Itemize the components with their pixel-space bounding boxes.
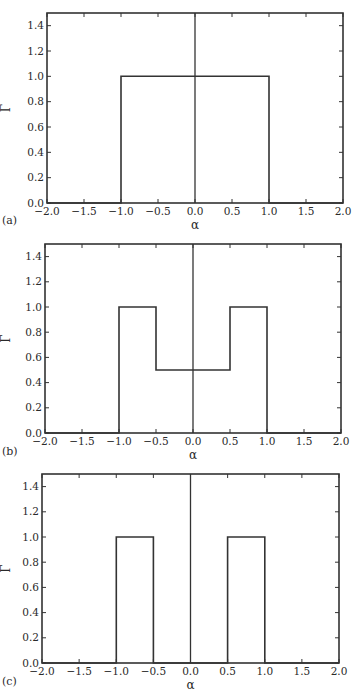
x-tick-label: −1.0 [104, 665, 130, 677]
y-tick-label: 0.6 [25, 351, 42, 363]
x-tick-label: −0.5 [145, 205, 171, 217]
x-tick-label: −1.5 [71, 205, 97, 217]
y-tick-label: 0.6 [27, 121, 44, 133]
x-tick-label: 2.0 [333, 435, 350, 447]
figure: (a) −2.0−1.5−1.0−0.50.00.51.01.52.00.00.… [0, 0, 357, 698]
panel-c: (c) −2.0−1.5−1.0−0.50.00.51.01.52.00.00.… [0, 474, 347, 692]
x-tick-label: 0.0 [187, 205, 204, 217]
y-axis-label: Γ [0, 104, 13, 112]
panel-b: (b) −2.0−1.5−1.0−0.50.00.51.01.52.00.00.… [0, 244, 349, 462]
x-tick-label: 2.0 [335, 205, 352, 217]
x-tick-label: 0.5 [222, 435, 239, 447]
y-axis-label: Γ [0, 334, 13, 342]
x-tick-label: 1.5 [298, 205, 315, 217]
x-axis-label: α [189, 448, 197, 462]
x-tick-label: 0.0 [182, 665, 199, 677]
figure-canvas: (a) −2.0−1.5−1.0−0.50.00.51.01.52.00.00.… [0, 0, 357, 698]
y-tick-label: 0.4 [22, 606, 39, 618]
x-tick-label: 0.5 [219, 665, 236, 677]
y-tick-label: 0.2 [22, 631, 39, 643]
y-tick-label: 1.2 [27, 45, 44, 57]
y-tick-label: 0.6 [22, 581, 39, 593]
x-tick-label: 0.0 [185, 435, 202, 447]
y-tick-label: 1.4 [22, 480, 39, 492]
x-tick-label: 0.5 [224, 205, 241, 217]
x-tick-label: 1.0 [261, 205, 278, 217]
x-tick-label: −1.0 [108, 205, 134, 217]
y-tick-label: 0.2 [25, 401, 42, 413]
y-tick-label: 0.0 [25, 427, 42, 439]
x-tick-label: 1.0 [256, 665, 273, 677]
panel-label-c: (c) [2, 675, 17, 688]
x-tick-label: 1.0 [259, 435, 276, 447]
y-tick-label: 1.2 [22, 505, 39, 517]
x-tick-label: 2.0 [331, 665, 348, 677]
x-tick-label: −1.5 [66, 665, 92, 677]
x-axis-label: α [191, 218, 199, 232]
y-tick-label: 0.0 [27, 197, 44, 209]
panel-label-b: (b) [2, 445, 18, 458]
y-axis-label: Γ [0, 564, 13, 572]
y-tick-label: 0.8 [22, 556, 39, 568]
x-tick-label: −1.5 [69, 435, 95, 447]
y-tick-label: 1.2 [25, 275, 42, 287]
x-tick-label: 1.5 [296, 435, 313, 447]
x-tick-label: −0.5 [141, 665, 167, 677]
panel-a: (a) −2.0−1.5−1.0−0.50.00.51.01.52.00.00.… [0, 13, 351, 232]
x-tick-label: 1.5 [294, 665, 311, 677]
x-tick-label: −0.5 [143, 435, 169, 447]
y-tick-label: 0.4 [27, 146, 44, 158]
y-tick-label: 1.4 [25, 250, 42, 262]
x-tick-label: −1.0 [106, 435, 132, 447]
y-tick-label: 0.2 [27, 171, 44, 183]
y-tick-label: 1.4 [27, 19, 44, 31]
y-tick-label: 0.0 [22, 657, 39, 669]
y-tick-label: 1.0 [27, 70, 44, 82]
y-tick-label: 1.0 [25, 301, 42, 313]
y-tick-label: 1.0 [22, 531, 39, 543]
panel-label-a: (a) [2, 214, 17, 227]
y-tick-label: 0.8 [25, 326, 42, 338]
y-tick-label: 0.4 [25, 376, 42, 388]
y-tick-label: 0.8 [27, 95, 44, 107]
x-axis-label: α [186, 678, 194, 692]
